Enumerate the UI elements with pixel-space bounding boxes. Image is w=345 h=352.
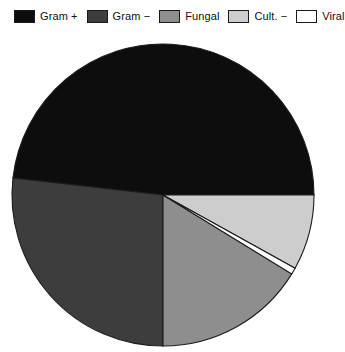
pie-svg — [0, 32, 326, 352]
chart-legend: Gram + Gram − Fungal Cult. − Viral — [0, 0, 326, 32]
pie-slice[interactable] — [12, 178, 163, 346]
legend-label-gram-plus: Gram + — [40, 10, 78, 23]
legend-item-gram-minus: Gram − — [87, 10, 151, 23]
legend-label-gram-minus: Gram − — [113, 10, 151, 23]
legend-swatch-gram-minus — [87, 10, 108, 23]
legend-label-fungal: Fungal — [185, 10, 219, 23]
legend-swatch-fungal — [159, 10, 180, 23]
legend-label-viral: Viral — [322, 10, 344, 23]
legend-item-fungal: Fungal — [159, 10, 219, 23]
pie-slice[interactable] — [13, 44, 314, 195]
legend-swatch-cult-minus — [228, 10, 249, 23]
legend-item-cult-minus: Cult. − — [228, 10, 287, 23]
pie-slice-group — [12, 44, 314, 346]
legend-swatch-viral — [296, 10, 317, 23]
legend-item-viral: Viral — [296, 10, 344, 23]
legend-swatch-gram-plus — [14, 10, 35, 23]
legend-label-cult-minus: Cult. − — [254, 10, 287, 23]
legend-item-gram-plus: Gram + — [14, 10, 78, 23]
pie-plot-area — [0, 32, 326, 352]
